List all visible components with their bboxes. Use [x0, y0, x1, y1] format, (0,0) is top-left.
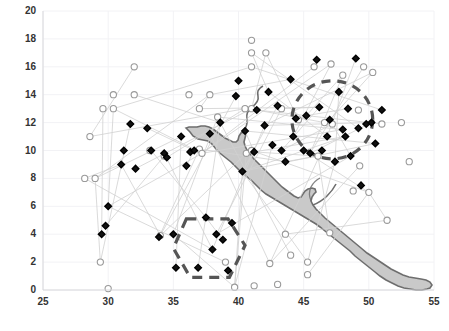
filled-diamond-marker: [98, 231, 105, 238]
filled-diamond-marker: [127, 121, 134, 128]
open-circle-marker: [361, 64, 367, 70]
y-tick-label: 2: [8, 256, 36, 267]
filled-diamond-marker: [105, 203, 112, 210]
x-tick-label: 50: [354, 296, 384, 307]
filled-diamond-marker: [132, 165, 139, 172]
open-circle-marker: [110, 92, 116, 98]
open-circle-marker: [105, 286, 111, 292]
filled-diamond-marker: [269, 142, 276, 149]
x-tick-label: 25: [28, 296, 58, 307]
plot-canvas: [0, 0, 449, 331]
open-circle-marker: [110, 106, 116, 112]
y-tick-label: 18: [8, 33, 36, 44]
filled-diamond-marker: [358, 182, 365, 189]
x-tick-label: 30: [93, 296, 123, 307]
filled-diamond-marker: [213, 231, 220, 238]
filled-diamond-marker: [178, 133, 185, 140]
filled-diamond-marker: [282, 158, 289, 165]
open-circle-marker: [248, 64, 254, 70]
open-circle-marker: [406, 159, 412, 165]
open-circle-marker: [242, 106, 248, 112]
open-circle-marker: [92, 175, 98, 181]
open-circle-marker: [327, 230, 333, 236]
filled-diamond-marker: [339, 126, 346, 133]
open-circle-marker: [366, 189, 372, 195]
open-circle-marker: [186, 92, 192, 98]
y-tick-label: 4: [8, 228, 36, 239]
open-circle-marker: [311, 64, 317, 70]
open-circle-marker: [304, 272, 310, 278]
filled-diamond-marker: [353, 55, 360, 62]
filled-diamond-marker: [229, 220, 236, 227]
open-circle-marker: [231, 284, 237, 290]
filled-diamond-marker: [345, 105, 352, 112]
y-tick-label: 10: [8, 145, 36, 156]
y-tick-label: 6: [8, 200, 36, 211]
open-circle-marker: [315, 153, 321, 159]
open-circle-marker: [222, 259, 228, 265]
filled-diamond-marker: [372, 140, 379, 147]
open-circle-marker: [304, 259, 310, 265]
filled-diamond-marker: [300, 147, 307, 154]
open-circle-marker: [275, 281, 281, 287]
x-tick-label: 35: [158, 296, 188, 307]
open-circle-marker: [251, 283, 257, 289]
open-circle-marker: [131, 92, 137, 98]
x-tick-label: 55: [419, 296, 449, 307]
filled-diamond-marker: [379, 107, 386, 114]
y-tick-label: 20: [8, 5, 36, 16]
migration-connector-lines: [85, 53, 387, 287]
open-circle-marker: [340, 72, 346, 78]
y-tick-label: 8: [8, 172, 36, 183]
filled-diamond-marker: [235, 77, 242, 84]
open-circle-marker: [355, 107, 361, 113]
y-tick-label: 16: [8, 61, 36, 72]
y-tick-label: 0: [8, 284, 36, 295]
open-circle-marker: [398, 120, 404, 126]
y-tick-label: 14: [8, 89, 36, 100]
filled-diamond-marker: [121, 147, 128, 154]
filled-diamond-marker: [209, 246, 216, 253]
x-tick-label: 40: [224, 296, 254, 307]
y-tick-label: 12: [8, 117, 36, 128]
open-circle-marker: [87, 133, 93, 139]
open-circle-marker: [100, 106, 106, 112]
open-circle-marker: [357, 163, 363, 169]
open-circle-marker: [248, 50, 254, 56]
filled-diamond-marker: [220, 236, 227, 243]
open-circle-marker: [384, 217, 390, 223]
x-tick-label: 45: [289, 296, 319, 307]
open-circle-marker: [370, 69, 376, 75]
open-circle-marker: [131, 64, 137, 70]
open-circle-marker: [82, 175, 88, 181]
open-circle-marker: [282, 231, 288, 237]
open-circle-marker: [350, 188, 356, 194]
open-circle-marker: [196, 106, 202, 112]
open-circle-marker: [199, 150, 205, 156]
open-circle-marker: [379, 121, 385, 127]
open-circle-marker: [263, 50, 269, 56]
open-circle-marker: [267, 260, 273, 266]
scatter-map-figure: 0246810121416182025303540455055: [0, 0, 449, 331]
open-circle-marker: [328, 61, 334, 67]
filled-diamond-marker: [195, 264, 202, 271]
open-circle-marker: [288, 252, 294, 258]
open-circle-marker: [248, 37, 254, 43]
filled-diamond-marker: [313, 57, 320, 64]
open-circle-marker: [97, 259, 103, 265]
open-circle-marker: [207, 92, 213, 98]
